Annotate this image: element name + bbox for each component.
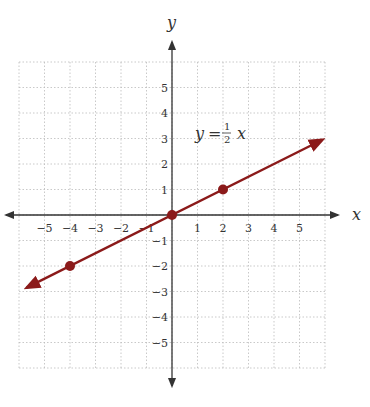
y-tick-label: −5 (152, 337, 168, 350)
labels: x y y = 1 2 x (166, 13, 361, 224)
x-tick-label: 3 (245, 222, 252, 235)
data-point (218, 185, 228, 195)
line-series (27, 140, 323, 288)
y-tick-label: 4 (161, 107, 168, 120)
svg-text:y: y (194, 124, 205, 143)
x-tick-label: −3 (87, 222, 103, 235)
y-axis-label: y (166, 13, 177, 32)
x-tick-label: −2 (113, 222, 129, 235)
svg-text:1: 1 (224, 121, 230, 132)
svg-text:=: = (208, 124, 221, 143)
x-axis-label: x (352, 205, 361, 224)
data-point (167, 210, 177, 220)
svg-text:x: x (237, 124, 246, 143)
x-tick-label: 1 (194, 222, 201, 235)
y-tick-label: 1 (161, 184, 168, 197)
y-tick-label: 3 (161, 133, 168, 146)
y-tick-label: −3 (152, 286, 168, 299)
x-tick-label: 5 (296, 222, 303, 235)
equation-label: y = 1 2 x (194, 121, 246, 145)
coordinate-plane: −5−4−3−2−11234554321−1−2−3−4−5 x y y = 1… (0, 0, 370, 407)
x-tick-label: 4 (271, 222, 278, 235)
svg-text:2: 2 (224, 134, 230, 145)
y-tick-label: 5 (161, 82, 168, 95)
data-point (65, 261, 75, 271)
x-tick-label: 2 (220, 222, 227, 235)
y-tick-label: 2 (161, 158, 168, 171)
y-tick-label: −1 (152, 235, 168, 248)
x-tick-label: −4 (62, 222, 78, 235)
x-tick-label: −5 (36, 222, 52, 235)
y-tick-label: −4 (152, 311, 168, 324)
y-tick-label: −2 (152, 260, 168, 273)
